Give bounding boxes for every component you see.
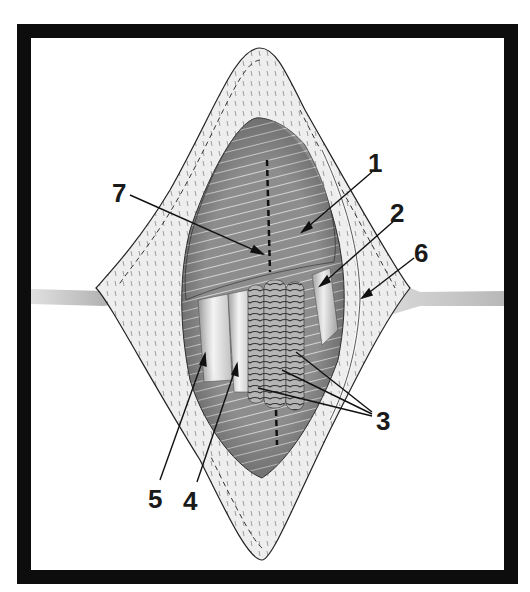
label-6: 6	[414, 238, 428, 268]
label-4: 4	[183, 486, 198, 516]
label-1: 1	[368, 148, 382, 178]
label-3: 3	[376, 406, 390, 436]
label-2: 2	[390, 198, 404, 228]
surgical-incision-diagram: 1 2 3 4 5 6 7	[0, 0, 530, 592]
label-7: 7	[112, 178, 126, 208]
label-5: 5	[148, 484, 162, 514]
